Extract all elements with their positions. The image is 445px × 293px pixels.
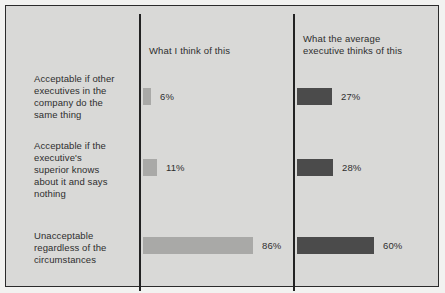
column-header-what-i-think: What I think of this <box>149 45 284 57</box>
row-label-2: Unacceptable regardless of the circumsta… <box>34 230 134 266</box>
bar-value-series1-row1: 11% <box>166 159 185 176</box>
bar-value-series2-row1: 28% <box>342 159 361 176</box>
chart-figure: What I think of this What the average ex… <box>0 0 445 293</box>
bar-series2-row1 <box>297 159 333 176</box>
column-divider-2 <box>293 14 295 291</box>
bar-series2-row2 <box>297 237 374 254</box>
row-label-0: Acceptable if other executives in the co… <box>34 73 134 121</box>
bar-value-series1-row0: 6% <box>160 88 174 105</box>
bar-series1-row1 <box>143 159 157 176</box>
bar-series1-row0 <box>143 88 151 105</box>
column-divider-1 <box>139 14 141 291</box>
bar-value-series2-row0: 27% <box>341 88 360 105</box>
bar-value-series2-row2: 60% <box>383 237 402 254</box>
chart-panel: What I think of this What the average ex… <box>5 5 439 287</box>
bar-value-series1-row2: 86% <box>262 237 281 254</box>
bar-series2-row0 <box>297 88 332 105</box>
bar-series1-row2 <box>143 237 253 254</box>
row-label-1: Acceptable if the executive's superior k… <box>34 140 134 200</box>
column-header-what-average-executive-thinks: What the average executive thinks of thi… <box>303 33 443 56</box>
